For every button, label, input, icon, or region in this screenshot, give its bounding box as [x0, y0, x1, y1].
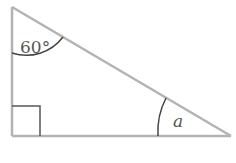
angle-arc-a [158, 98, 166, 136]
triangle-hypotenuse [12, 7, 231, 136]
angle-label-60: 60° [20, 37, 50, 57]
angle-label-a: a [173, 111, 183, 131]
triangle-diagram: 60° a [0, 0, 236, 163]
right-angle-marker [12, 106, 40, 136]
